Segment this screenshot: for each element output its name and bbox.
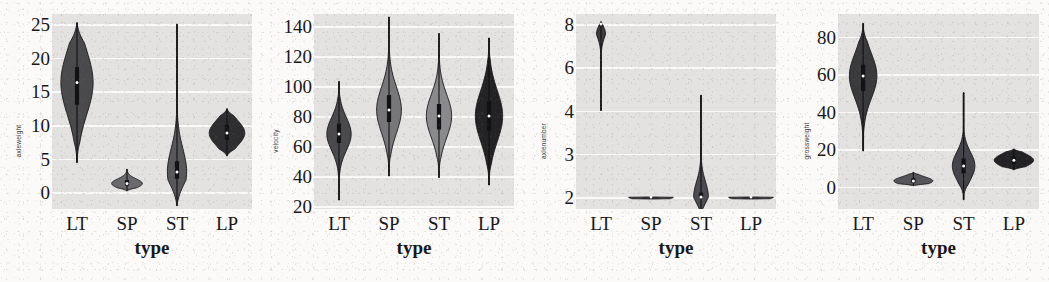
y-tick-label: 10 (31, 115, 50, 134)
x-tick-label-ST: ST (953, 213, 975, 235)
x-tick-label-LP: LP (216, 213, 238, 235)
x-tick-label-LP: LP (478, 213, 500, 235)
y-tick-label: 60 (817, 65, 836, 84)
y-tick-label: 0 (827, 177, 837, 196)
y-axis-ticks: 23468 (538, 14, 576, 209)
x-tick-label-SP: SP (903, 213, 924, 235)
y-tick-label: 15 (31, 82, 50, 101)
y-tick-label: 40 (293, 167, 312, 186)
x-tick-label-ST: ST (690, 213, 712, 235)
y-tick-label: 20 (817, 140, 836, 159)
x-axis-ticks: LTSPSTLP (838, 213, 1039, 239)
x-axis-ticks: LTSPSTLP (576, 213, 776, 239)
x-tick-label-SP: SP (640, 213, 661, 235)
y-axis-ticks: 0510152025 (14, 14, 52, 209)
median-marker (750, 196, 753, 199)
violin-panel-axleweight: axleweight0510152025LTSPSTLPtype (0, 0, 262, 282)
violin-LP (52, 14, 252, 209)
y-tick-label: 100 (284, 77, 313, 96)
y-tick-label: 20 (293, 197, 312, 216)
x-tick-label-LT: LT (328, 213, 349, 235)
y-axis-ticks: 020406080 (800, 14, 838, 209)
violin-panel-velocity: velocity20406080100120140LTSPSTLPtype (262, 0, 524, 282)
violin-plot-figure: axleweight0510152025LTSPSTLPtypevelocity… (0, 0, 1049, 282)
y-tick-label: 20 (31, 48, 50, 67)
median-marker (488, 115, 491, 118)
x-tick-label-ST: ST (166, 213, 188, 235)
plot-area (52, 14, 252, 209)
violin-LP (314, 14, 514, 209)
y-tick-label: 120 (284, 47, 313, 66)
plot-area (314, 14, 514, 209)
y-axis-ticks: 20406080100120140 (276, 14, 314, 209)
y-tick-label: 2 (565, 188, 575, 207)
plot-area (838, 14, 1039, 209)
y-tick-label: 6 (565, 58, 575, 77)
plot-area (576, 14, 776, 209)
x-axis-ticks: LTSPSTLP (314, 213, 514, 239)
y-tick-label: 40 (817, 102, 836, 121)
x-tick-label-LP: LP (1003, 213, 1025, 235)
y-tick-label: 0 (41, 183, 51, 202)
y-tick-label: 80 (293, 107, 312, 126)
x-axis-ticks: LTSPSTLP (52, 213, 252, 239)
x-tick-label-LT: LT (66, 213, 87, 235)
x-axis-title: type (576, 237, 776, 259)
y-tick-label: 5 (41, 149, 51, 168)
y-tick-label: 8 (565, 15, 575, 34)
y-tick-label: 80 (817, 27, 836, 46)
violin-panel-axlenumber: axlenumber23468LTSPSTLPtype (524, 0, 786, 282)
y-tick-label: 4 (565, 101, 575, 120)
y-tick-label: 25 (31, 15, 50, 34)
x-axis-title: type (52, 237, 252, 259)
x-axis-title: type (838, 237, 1039, 259)
x-axis-title: type (314, 237, 514, 259)
x-tick-label-LT: LT (852, 213, 873, 235)
violin-LP (576, 14, 776, 209)
y-tick-label: 3 (565, 144, 575, 163)
x-tick-label-SP: SP (116, 213, 137, 235)
x-tick-label-SP: SP (378, 213, 399, 235)
x-tick-label-ST: ST (428, 213, 450, 235)
x-tick-label-LP: LP (740, 213, 762, 235)
median-marker (226, 132, 229, 135)
violin-panel-grossweight: grossweight020406080LTSPSTLPtype (786, 0, 1049, 282)
y-tick-label: 140 (284, 17, 313, 36)
median-marker (1012, 159, 1015, 162)
violin-LP (838, 14, 1039, 209)
x-tick-label-LT: LT (590, 213, 611, 235)
y-tick-label: 60 (293, 137, 312, 156)
